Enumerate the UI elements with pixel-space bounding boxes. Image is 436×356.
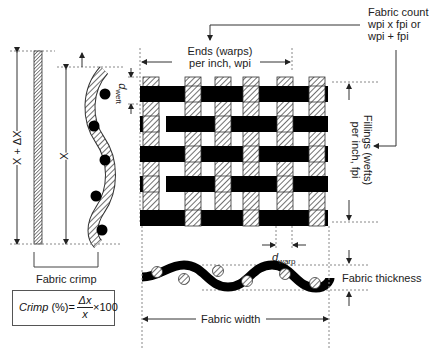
x-plus-dx-label: X + ΔX <box>11 131 23 165</box>
fillings-line1: Fillings (wefts) <box>362 104 374 196</box>
d-warp-label: dwarp <box>272 251 295 268</box>
fabric-count-formula-1: wpi x fpi or <box>368 18 429 30</box>
ends-line2: per inch, wpi <box>180 57 260 69</box>
crimp-formula: Crimp (%)= Δx x ×100 <box>12 290 115 326</box>
x-label: X <box>56 152 72 159</box>
crimp-multiplier: ×100 <box>93 301 118 313</box>
d-warp-subscript: warp <box>278 257 295 266</box>
fabric-count-label: Fabric count wpi x fpi or wpi + fpi <box>368 6 429 42</box>
crimp-unit: (%)= <box>48 301 75 313</box>
d-weft-label: dweft <box>112 83 129 104</box>
ends-label: Ends (warps) per inch, wpi <box>180 45 260 69</box>
fabric-crimp-label: Fabric crimp <box>36 273 97 285</box>
fraction-numerator: Δx <box>77 294 93 308</box>
fabric-count-formula-2: wpi + fpi <box>368 30 429 42</box>
fillings-label: Fillings (wefts) per inch, fpi <box>350 104 374 196</box>
fillings-line2: per inch, fpi <box>350 104 362 196</box>
ends-line1: Ends (warps) <box>180 45 260 57</box>
d-weft-subscript: weft <box>114 89 123 104</box>
fabric-count-title: Fabric count <box>368 6 429 18</box>
crimp-fraction: Δx x <box>77 294 93 321</box>
fabric-cross-section <box>142 226 370 350</box>
fraction-denominator: x <box>82 308 88 320</box>
crimp-word: Crimp <box>19 301 48 313</box>
fabric-thickness-label: Fabric thickness <box>342 272 421 284</box>
fabric-width-label: Fabric width <box>201 313 260 325</box>
crimp-formula-lhs: Crimp (%)= <box>19 301 75 313</box>
